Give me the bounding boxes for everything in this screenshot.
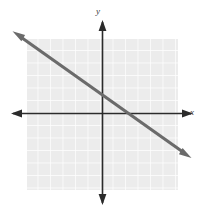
- y-axis-label: y: [96, 7, 100, 16]
- y-axis-bottom-arrowhead: [99, 194, 107, 205]
- y-axis-top-arrowhead: [99, 20, 107, 31]
- x-axis-left-arrowhead: [11, 110, 22, 118]
- coordinate-plane-figure: y x: [0, 0, 204, 211]
- x-axis-label: x: [190, 108, 194, 117]
- graph-canvas: [0, 0, 204, 211]
